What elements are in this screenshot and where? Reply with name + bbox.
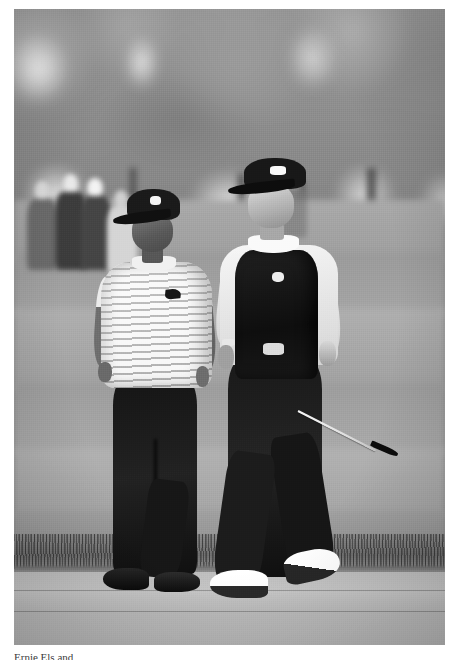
- els-left-hand: [218, 345, 234, 368]
- els-vest-chest-logo-icon: [272, 272, 284, 282]
- golfer-tiger-woods: [96, 187, 217, 594]
- els-front-shoe: [210, 570, 269, 598]
- page-sheet: Ernie Els and: [0, 0, 451, 660]
- tiger-left-hand: [98, 362, 111, 382]
- tiger-cap-logo-icon: [150, 196, 161, 205]
- nike-swoosh-icon: [164, 288, 181, 300]
- cart-path-seam: [14, 611, 445, 612]
- els-vest-lower-logo-icon: [263, 343, 284, 355]
- photo-caption: Ernie Els and: [14, 651, 434, 660]
- els-vest: [235, 250, 318, 379]
- golfer-ernie-els: [212, 158, 346, 603]
- els-cap-logo-icon: [270, 166, 286, 175]
- golf-photograph: [14, 9, 445, 645]
- tiger-right-shoe: [154, 572, 200, 592]
- spectator: [27, 181, 57, 270]
- tiger-left-shoe: [103, 568, 149, 591]
- canopy-sky-highlight: [14, 22, 445, 124]
- tiger-right-hand: [196, 366, 209, 386]
- tiger-striped-polo: [101, 262, 212, 388]
- els-right-hand: [319, 341, 336, 366]
